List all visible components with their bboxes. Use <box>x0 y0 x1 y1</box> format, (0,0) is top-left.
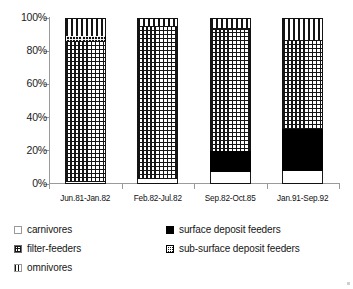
bar-4 <box>282 18 323 184</box>
bar-segment-filter-feeders <box>282 40 323 130</box>
x-axis-label: Jun.81-Jan.82 <box>49 194 122 204</box>
bar-segment-sub-surface-deposit-feeders <box>65 36 106 41</box>
x-axis-label: Jan.91-Sep.92 <box>267 194 340 204</box>
grid-swatch <box>14 245 22 253</box>
legend-item-filter-feeders[interactable]: filter-feeders <box>14 243 81 254</box>
bar-1 <box>65 18 106 184</box>
bar-3 <box>210 18 251 184</box>
bar-segment-omnivores <box>210 18 251 28</box>
x-axis-tick <box>122 184 123 189</box>
stripe-swatch <box>14 264 22 272</box>
bar-segment-carnivores <box>137 179 178 184</box>
bar-segment-filter-feeders <box>210 28 251 151</box>
bar-segment-filter-feeders <box>137 26 178 179</box>
black-swatch <box>166 226 174 234</box>
bar-segment-omnivores <box>282 18 323 40</box>
legend-item-label: filter-feeders <box>27 243 81 254</box>
chart-legend: carnivoresfilter-feedersomnivoressurface… <box>14 224 344 282</box>
x-axis-tick <box>267 184 268 189</box>
bar-segment-carnivores <box>282 171 323 184</box>
y-axis-tick-label: 40% <box>1 112 47 122</box>
y-axis-tick-label: 80% <box>1 45 47 55</box>
legend-item-label: omnivores <box>27 262 72 273</box>
bar-segment-omnivores <box>65 18 106 36</box>
bar-2 <box>137 18 178 184</box>
plot-area <box>49 18 339 184</box>
legend-item-label: carnivores <box>27 224 72 235</box>
dark-grid-swatch <box>166 245 174 253</box>
stacked-bar-chart: 0%20%40%60%80%100% Jun.81-Jan.82Feb.82-J… <box>0 0 353 289</box>
legend-item-label: surface deposit feeders <box>179 224 281 235</box>
y-axis-tick-label: 0% <box>1 178 47 188</box>
legend-item-surface-deposit-feeders[interactable]: surface deposit feeders <box>166 224 281 235</box>
y-axis-tick-label: 100% <box>1 12 47 22</box>
bar-segment-filter-feeders <box>65 41 106 182</box>
bar-segment-surface-deposit-feeders <box>282 129 323 171</box>
x-axis-tick <box>339 184 340 189</box>
bar-segment-carnivores <box>210 172 251 184</box>
y-axis-tick-label: 20% <box>1 145 47 155</box>
x-axis-tick <box>194 184 195 189</box>
bar-segment-surface-deposit-feeders <box>210 151 251 173</box>
legend-item-carnivores[interactable]: carnivores <box>14 224 72 235</box>
bar-segment-carnivores <box>65 182 106 184</box>
white-swatch <box>14 226 22 234</box>
legend-item-sub-surface-deposit-feeders[interactable]: sub-surface deposit feeders <box>166 243 300 254</box>
x-axis-label: Feb.82-Jul.82 <box>122 194 195 204</box>
x-axis-label: Sep.82-Oct.85 <box>194 194 267 204</box>
legend-item-omnivores[interactable]: omnivores <box>14 262 72 273</box>
y-axis-tick-label: 60% <box>1 78 47 88</box>
image-artifact <box>347 282 350 285</box>
x-axis-tick <box>49 184 50 189</box>
legend-item-label: sub-surface deposit feeders <box>179 243 300 254</box>
bar-segment-omnivores <box>137 18 178 26</box>
